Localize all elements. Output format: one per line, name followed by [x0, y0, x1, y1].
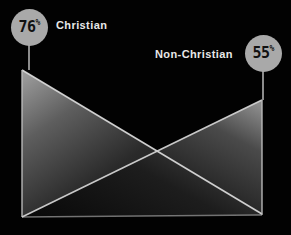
- chart-canvas: 76 % 55 % Christian Non-Christian: [0, 0, 291, 235]
- badge-christian-unit: %: [36, 19, 41, 27]
- badge-christian-percent[interactable]: 76 %: [11, 9, 48, 46]
- badge-stem-christian: [28, 44, 30, 70]
- series-label-christian: Christian: [56, 19, 107, 31]
- badge-christian-inner: 76 %: [19, 20, 41, 35]
- badge-non-christian-percent[interactable]: 55 %: [245, 35, 282, 72]
- badge-christian-value: 76: [19, 20, 36, 35]
- badge-non-christian-inner: 55 %: [253, 46, 275, 61]
- badge-non-christian-value: 55: [253, 46, 270, 61]
- series-label-non-christian: Non-Christian: [155, 48, 233, 60]
- badge-non-christian-unit: %: [270, 45, 275, 53]
- badge-stem-non-christian: [262, 70, 264, 100]
